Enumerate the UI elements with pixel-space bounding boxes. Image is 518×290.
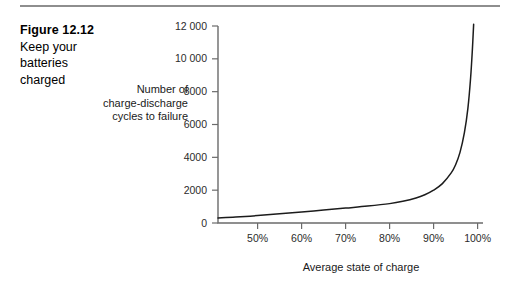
y-tick-label: 10 000 [175,52,207,64]
x-tick-label: 90% [423,232,444,244]
chart-plot-area: 0200040006000800010 00012 000 50%60%70%8… [0,0,518,290]
figure-container: Figure 12.12 Keep your batteries charged… [0,0,518,290]
x-tick-label: 80% [379,232,400,244]
x-axis-title: Average state of charge [281,261,441,273]
x-axis-ticks: 50%60%70%80%90%100% [247,223,491,244]
axis-lines [218,26,483,223]
x-tick-label: 50% [247,232,268,244]
y-tick-label: 4000 [184,151,208,163]
x-tick-label: 70% [335,232,356,244]
x-tick-label: 60% [291,232,312,244]
y-tick-label: 2000 [184,184,208,196]
y-tick-label: 6000 [184,118,208,130]
y-tick-label: 0 [201,217,207,229]
y-tick-label: 8000 [184,85,208,97]
y-axis-ticks: 0200040006000800010 00012 000 [175,20,218,229]
y-tick-label: 12 000 [175,20,207,32]
x-tick-label: 100% [464,232,491,244]
series-line-cycles-to-failure [218,24,474,218]
